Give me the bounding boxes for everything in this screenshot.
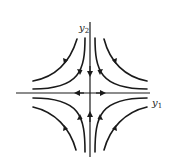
horizontal-axis-label: y1: [152, 98, 162, 110]
trajectory-lower-left-outer: [33, 107, 76, 150]
horizontal-axis-label-subscript: 1: [158, 102, 162, 110]
arrow-icon: [77, 114, 83, 120]
trajectory-lower-right-inner: [95, 98, 147, 152]
arrow-icon: [98, 114, 104, 120]
trajectory-upper-right-outer: [104, 39, 147, 81]
trajectory-upper-left-inner: [33, 38, 85, 89]
trajectory-upper-left-outer: [33, 39, 77, 81]
vertical-axis-label-subscript: 2: [85, 27, 89, 35]
trajectory-lower-left-inner: [33, 98, 85, 152]
vertical-axis-label: y2: [79, 23, 89, 35]
trajectory-lower-right-outer: [104, 107, 147, 150]
trajectory-upper-right-inner: [95, 38, 147, 89]
